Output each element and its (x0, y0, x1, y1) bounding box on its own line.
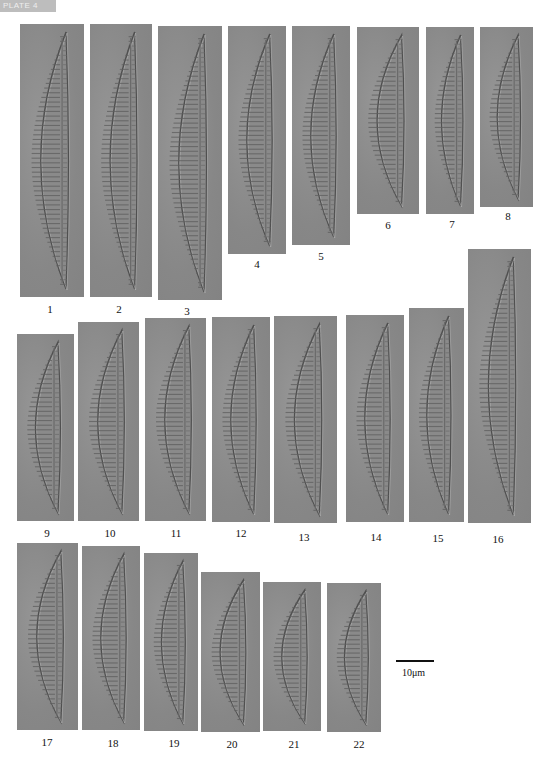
micrograph-panel-13 (274, 316, 337, 523)
micrograph-panel-22 (327, 583, 381, 732)
micrograph-panel-20 (201, 572, 260, 732)
micrograph-panel-10 (78, 322, 139, 521)
diatom-valve-icon (468, 249, 531, 523)
panel-label-3: 3 (172, 305, 202, 317)
micrograph-panel-14 (346, 315, 404, 522)
diatom-valve-icon (228, 26, 286, 254)
diatom-valve-icon (409, 308, 464, 522)
diatom-valve-icon (17, 543, 78, 730)
panel-label-12: 12 (226, 527, 256, 539)
diatom-valve-icon (212, 317, 270, 522)
micrograph-panel-6 (357, 27, 419, 214)
diatom-valve-icon (20, 24, 84, 297)
micrograph-panel-11 (145, 318, 206, 521)
diatom-valve-icon (82, 546, 140, 730)
micrograph-panel-2 (90, 24, 152, 297)
panel-label-8: 8 (493, 210, 523, 222)
micrograph-panel-9 (17, 334, 74, 521)
panel-label-2: 2 (104, 303, 134, 315)
diatom-valve-icon (145, 318, 206, 521)
panel-label-19: 19 (159, 737, 189, 749)
diatom-valve-icon (263, 582, 321, 731)
diatom-valve-icon (327, 583, 381, 732)
panel-label-9: 9 (32, 527, 62, 539)
panel-label-1: 1 (35, 303, 65, 315)
micrograph-panel-7 (426, 27, 474, 214)
diatom-valve-icon (480, 27, 533, 207)
diatom-valve-icon (426, 27, 474, 214)
micrograph-panel-3 (158, 26, 222, 300)
scale-bar-label: 10μm (402, 667, 425, 678)
micrograph-panel-21 (263, 582, 321, 731)
panel-label-17: 17 (32, 736, 62, 748)
panel-label-14: 14 (361, 531, 391, 543)
diatom-valve-icon (357, 27, 419, 214)
panel-label-13: 13 (289, 531, 319, 543)
micrograph-panel-17 (17, 543, 78, 730)
panel-label-22: 22 (344, 738, 374, 750)
panel-label-4: 4 (242, 258, 272, 270)
panel-label-10: 10 (95, 527, 125, 539)
diatom-valve-icon (158, 26, 222, 300)
panel-label-15: 15 (423, 532, 453, 544)
panel-label-20: 20 (217, 738, 247, 750)
diatom-valve-icon (201, 572, 260, 732)
plate-tag: PLATE 4 (0, 0, 56, 12)
diatom-valve-icon (17, 334, 74, 521)
micrograph-panel-1 (20, 24, 84, 297)
panel-label-11: 11 (161, 527, 191, 539)
panel-label-16: 16 (483, 533, 513, 545)
diatom-valve-icon (292, 26, 350, 245)
panel-label-6: 6 (373, 219, 403, 231)
diatom-valve-icon (346, 315, 404, 522)
micrograph-panel-15 (409, 308, 464, 522)
micrograph-panel-4 (228, 26, 286, 254)
panel-label-18: 18 (98, 737, 128, 749)
micrograph-panel-19 (144, 553, 198, 731)
micrograph-panel-18 (82, 546, 140, 730)
diatom-valve-icon (274, 316, 337, 523)
micrograph-panel-8 (480, 27, 533, 207)
scale-bar (396, 660, 434, 662)
panel-label-5: 5 (306, 250, 336, 262)
panel-label-7: 7 (437, 218, 467, 230)
diatom-valve-icon (78, 322, 139, 521)
micrograph-panel-5 (292, 26, 350, 245)
micrograph-panel-12 (212, 317, 270, 522)
diatom-valve-icon (144, 553, 198, 731)
panel-label-21: 21 (279, 738, 309, 750)
micrograph-panel-16 (468, 249, 531, 523)
diatom-valve-icon (90, 24, 152, 297)
